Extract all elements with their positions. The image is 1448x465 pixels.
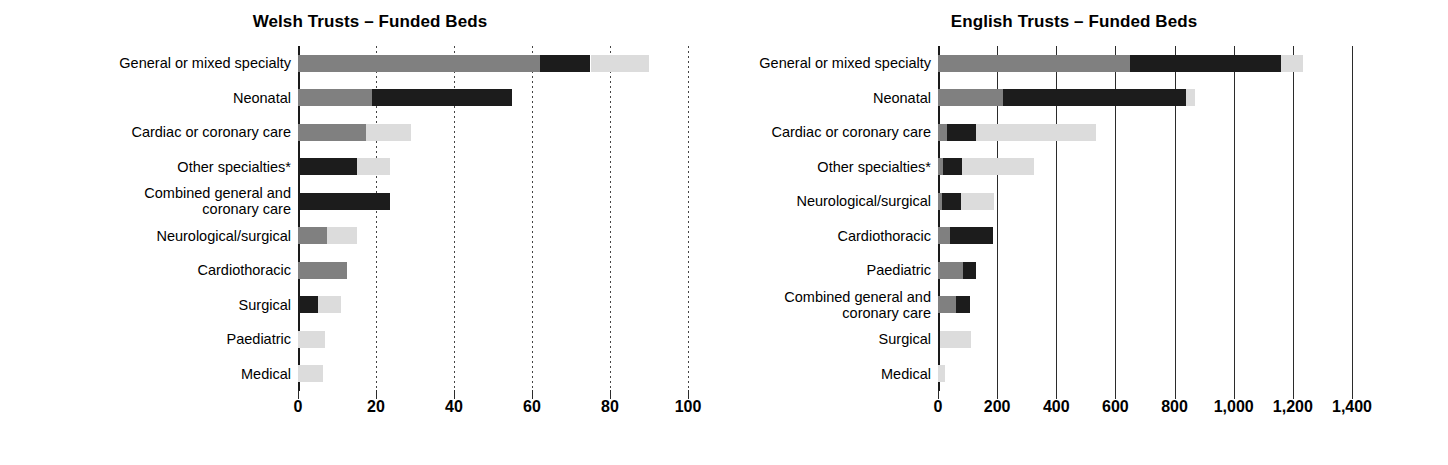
bar-segment-light-grey (298, 365, 323, 382)
bar-row[interactable]: Other specialties* (298, 158, 688, 175)
x-tick-label: 1,000 (1214, 398, 1254, 416)
category-label: Neurological/surgical (701, 193, 938, 209)
category-label: General or mixed specialty (41, 55, 298, 71)
bar-row[interactable]: Cardiac or coronary care (938, 124, 1352, 141)
welsh-chart-title: Welsh Trusts – Funded Beds (0, 12, 720, 32)
category-label: General or mixed specialty (701, 55, 938, 71)
welsh-chart-panel: Welsh Trusts – Funded Beds General or mi… (0, 0, 700, 465)
bar-segment-mid-grey (298, 227, 327, 244)
category-label: Cardiothoracic (41, 262, 298, 278)
x-tick-label: 100 (675, 398, 702, 416)
bar-row[interactable]: Neurological/surgical (298, 227, 688, 244)
stacked-bar[interactable] (298, 227, 357, 244)
bar-segment-black (950, 227, 992, 244)
english-chart-title: English Trusts – Funded Beds (700, 12, 1448, 32)
stacked-bar[interactable] (298, 296, 341, 313)
stacked-bar[interactable] (298, 158, 390, 175)
bar-segment-black (963, 262, 976, 279)
bar-row[interactable]: Medical (938, 365, 1352, 382)
stacked-bar[interactable] (938, 331, 971, 348)
bar-segment-black (1003, 89, 1186, 106)
bar-row[interactable]: Other specialties* (938, 158, 1352, 175)
x-tick-label: 80 (601, 398, 619, 416)
bar-segment-light-grey (938, 365, 945, 382)
bar-row[interactable]: Paediatric (298, 331, 688, 348)
stacked-bar[interactable] (938, 227, 993, 244)
bar-segment-black (956, 296, 970, 313)
bar-segment-mid-grey (938, 89, 1003, 106)
bar-segment-black (298, 158, 357, 175)
stacked-bar[interactable] (938, 124, 1096, 141)
bar-segment-light-grey (591, 55, 650, 72)
bar-row[interactable]: Medical (298, 365, 688, 382)
x-tick-label: 40 (445, 398, 463, 416)
x-tick-label: 400 (1043, 398, 1070, 416)
stacked-bar[interactable] (298, 365, 323, 382)
welsh-bar-rows: General or mixed specialtyNeonatalCardia… (298, 46, 688, 391)
category-label: Neurological/surgical (41, 228, 298, 244)
category-label: Cardiac or coronary care (701, 124, 938, 140)
stacked-bar[interactable] (938, 158, 1034, 175)
category-label: Medical (41, 366, 298, 382)
bar-row[interactable]: Cardiac or coronary care (298, 124, 688, 141)
welsh-plot-area: General or mixed specialtyNeonatalCardia… (298, 46, 688, 391)
x-tick-label: 1,200 (1273, 398, 1313, 416)
bar-segment-black (942, 193, 960, 210)
bar-row[interactable]: Neonatal (298, 89, 688, 106)
x-tick-label: 0 (294, 398, 303, 416)
stacked-bar[interactable] (298, 193, 390, 210)
bar-row[interactable]: Neonatal (938, 89, 1352, 106)
x-tick-label: 800 (1161, 398, 1188, 416)
bar-segment-light-grey (327, 227, 356, 244)
x-tick-label: 0 (934, 398, 943, 416)
x-tick-label: 200 (984, 398, 1011, 416)
category-label: Paediatric (701, 262, 938, 278)
bar-row[interactable]: General or mixed specialty (298, 55, 688, 72)
stacked-bar[interactable] (298, 89, 513, 106)
bar-segment-light-grey (298, 331, 325, 348)
bar-segment-mid-grey (298, 89, 372, 106)
stacked-bar[interactable] (298, 124, 411, 141)
stacked-bar[interactable] (938, 55, 1303, 72)
english-chart-panel: English Trusts – Funded Beds General or … (700, 0, 1448, 465)
bar-row[interactable]: Surgical (298, 296, 688, 313)
category-label: Surgical (701, 331, 938, 347)
bar-segment-light-grey (976, 124, 1096, 141)
stacked-bar[interactable] (938, 262, 976, 279)
bar-segment-light-grey (962, 158, 1034, 175)
bar-row[interactable]: Paediatric (938, 262, 1352, 279)
english-plot-area: General or mixed specialtyNeonatalCardia… (938, 46, 1352, 391)
x-tick-label: 600 (1102, 398, 1129, 416)
bar-segment-light-grey (366, 124, 411, 141)
bar-row[interactable]: Combined general and coronary care (298, 193, 688, 210)
x-tick-label: 1,400 (1332, 398, 1372, 416)
bar-row[interactable]: Cardiothoracic (938, 227, 1352, 244)
stacked-bar[interactable] (938, 193, 994, 210)
category-label: Neonatal (41, 90, 298, 106)
bar-segment-black (540, 55, 591, 72)
stacked-bar[interactable] (298, 331, 325, 348)
bar-row[interactable]: Cardiothoracic (298, 262, 688, 279)
category-label: Combined general and coronary care (701, 289, 938, 321)
bar-row[interactable]: Combined general and coronary care (938, 296, 1352, 313)
bar-row[interactable]: General or mixed specialty (938, 55, 1352, 72)
bar-row[interactable]: Neurological/surgical (938, 193, 1352, 210)
category-label: Other specialties* (41, 159, 298, 175)
stacked-bar[interactable] (298, 262, 347, 279)
category-label: Surgical (41, 297, 298, 313)
bar-segment-black (1130, 55, 1281, 72)
stacked-bar[interactable] (938, 365, 945, 382)
bar-segment-mid-grey (938, 227, 950, 244)
category-label: Other specialties* (701, 159, 938, 175)
bar-segment-mid-grey (938, 262, 963, 279)
gridline (688, 46, 689, 391)
bar-segment-light-grey (1281, 55, 1303, 72)
stacked-bar[interactable] (938, 89, 1195, 106)
category-label: Combined general and coronary care (41, 185, 298, 217)
gridline (1352, 46, 1353, 391)
bar-segment-black (372, 89, 512, 106)
stacked-bar[interactable] (938, 296, 970, 313)
stacked-bar[interactable] (298, 55, 649, 72)
category-label: Medical (701, 366, 938, 382)
bar-row[interactable]: Surgical (938, 331, 1352, 348)
